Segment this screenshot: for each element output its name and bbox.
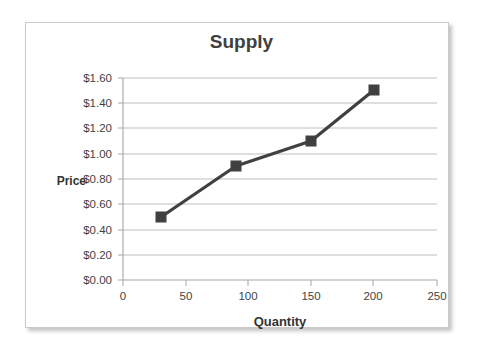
y-axis-ticks	[118, 78, 123, 280]
x-axis-title: Quantity	[123, 315, 437, 328]
y-axis-title: Price	[42, 175, 86, 187]
x-tick-label-250: 250	[417, 291, 457, 303]
y-tick-label-020: $0.20	[56, 250, 112, 262]
x-tick-label-150: 150	[291, 291, 331, 303]
y-tick-label-040: $0.40	[56, 225, 112, 237]
x-tick-label-0: 0	[103, 291, 143, 303]
x-axis-ticks	[123, 280, 437, 286]
x-tick-label-100: 100	[228, 291, 268, 303]
y-tick-label-120: $1.20	[56, 123, 112, 135]
y-tick-label-100: $1.00	[56, 149, 112, 161]
x-tick-label-200: 200	[353, 291, 393, 303]
chart-title: Supply	[0, 32, 483, 51]
y-tick-label-000: $0.00	[56, 275, 112, 287]
y-tick-label-160: $1.60	[56, 73, 112, 85]
y-tick-label-060: $0.60	[56, 199, 112, 211]
x-tick-label-50: 50	[166, 291, 206, 303]
gridlines	[123, 78, 437, 255]
y-tick-label-140: $1.40	[56, 98, 112, 110]
